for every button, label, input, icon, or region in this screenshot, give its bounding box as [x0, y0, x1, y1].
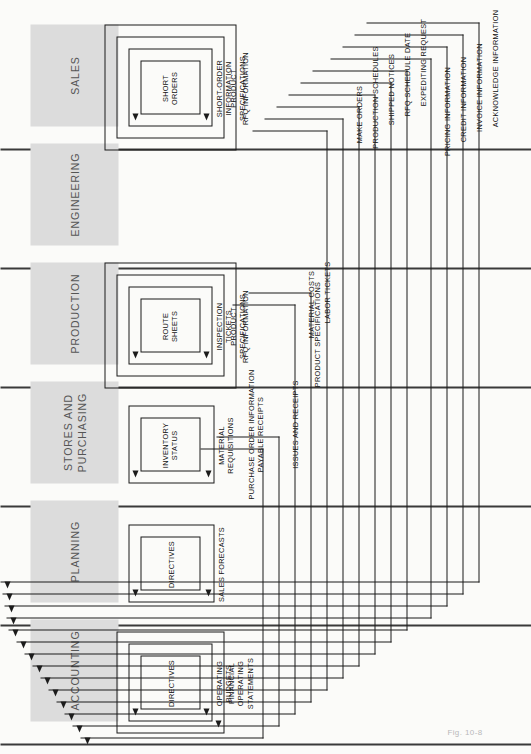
flowline-shipped-notices-horizontal: [374, 94, 375, 654]
flowline-invoice-information-horizontal: [462, 34, 463, 594]
flowline-invoice-information-riser: [2, 593, 463, 594]
arrow-acknowledge-information: [4, 581, 10, 588]
arrow-pricing-information: [10, 617, 16, 624]
flowline-acknowledge-information-horizontal: [478, 22, 479, 582]
label-financial-statements: FINANCIAL OPERATING STATEMENTS: [226, 617, 254, 749]
arrow-inspection-tickets-out: [203, 351, 209, 358]
flowline-expediting-request-horizontal: [406, 70, 407, 630]
figure-page: SALES ENGINEERING PRODUCTION STORES AND …: [0, 0, 531, 754]
flowline-acknowledge-information-drop: [366, 22, 479, 23]
flowline-acknowledge-information-riser: [0, 581, 479, 582]
label-rfq-information-eng: RFQ INFORMATION: [240, 10, 249, 166]
label-sales-forecasts: SALES FORECASTS: [216, 510, 225, 618]
doc-box-sales-forecasts: [128, 524, 214, 602]
figure-caption: Fig. 10-8: [420, 728, 510, 737]
flowline-issues-and-receipts-riser: [72, 725, 279, 726]
flowline-rfq-schedule-date-horizontal: [390, 82, 391, 642]
flowline-purchase-order-info-riser: [80, 737, 263, 738]
doc-box-material-requisitions: [128, 405, 214, 483]
flowline-product-specifications-drop: [252, 130, 327, 131]
doc-box-rfq-information-eng: [104, 24, 236, 150]
doc-box-rfq-information-prod: [104, 262, 236, 388]
arrow-product-specifications: [52, 689, 58, 696]
flowline-pricing-information-horizontal: [430, 58, 431, 618]
label-purchase-order-information: PURCHASE ORDER INFORMATION PAYABLE RECEI…: [246, 354, 265, 514]
flowline-credit-information-drop: [342, 46, 447, 47]
arrow-material-costs: [68, 713, 74, 720]
department-planning: PLANNING: [30, 500, 118, 602]
flowline-credit-information-riser: [4, 605, 447, 606]
flowline-pricing-information-riser: [6, 617, 431, 618]
diagram-canvas: SALES ENGINEERING PRODUCTION STORES AND …: [0, 0, 531, 754]
flowline-production-schedules-drop: [276, 106, 359, 107]
doc-box-financial-statements: [116, 631, 224, 733]
arrow-issues-and-receipts: [76, 725, 82, 732]
arrow-production-schedules: [36, 665, 42, 672]
flowline-expediting-request-drop: [312, 70, 407, 71]
arrow-material-requisitions-out: [205, 470, 211, 477]
flowline-material-costs-riser: [64, 713, 295, 714]
flowline-material-costs-drop: [232, 304, 295, 305]
arrow-credit-information: [8, 605, 14, 612]
arrow-expediting-request: [12, 629, 18, 636]
department-accounting: ACCOUNTING: [30, 619, 118, 721]
flowline-make-orders-drop: [264, 118, 343, 119]
arrow-rfq-schedule-date: [20, 641, 26, 648]
flowline-pricing-information-drop: [330, 58, 431, 59]
department-engineering: ENGINEERING: [30, 143, 118, 245]
department-stores-and-purchasing: STORES AND PURCHASING: [30, 381, 118, 483]
flowline-rfq-schedule-date-riser: [16, 641, 391, 642]
flowline-make-orders-riser: [40, 677, 343, 678]
flowline-rfq-schedule-date-drop: [300, 82, 391, 83]
flowline-production-schedules-riser: [32, 665, 359, 666]
arrow-route-sheets-in: [132, 351, 138, 358]
label-product-specifications: PRODUCT SPECIFICATIONS: [312, 244, 321, 424]
arrow-shipped-notices: [28, 653, 34, 660]
lane-rule-top: [0, 743, 531, 745]
arrow-make-orders: [44, 677, 50, 684]
arrow-invoice-information: [6, 593, 12, 600]
flowline-credit-information-horizontal: [446, 46, 447, 606]
flowline-shipped-notices-drop: [288, 94, 375, 95]
flowline-product-specifications-riser: [48, 689, 327, 690]
flowline-labor-tickets-drop: [248, 292, 311, 293]
flowline-issues-and-receipts-drop: [216, 436, 279, 437]
arrow-labor-tickets: [60, 701, 66, 708]
arrow-inventory-status-in: [132, 470, 138, 477]
flowline-shipped-notices-riser: [24, 653, 375, 654]
arrow-purchase-order-info: [84, 737, 90, 744]
label-acknowledge-information: ACKNOWLEDGE INFORMATION: [490, 0, 499, 158]
label-material-requisitions: MATERIAL REQUISITIONS: [216, 394, 235, 496]
flowline-invoice-information-drop: [354, 34, 463, 35]
flowline-expediting-request-riser: [8, 629, 407, 630]
flowline-labor-tickets-riser: [56, 701, 311, 702]
